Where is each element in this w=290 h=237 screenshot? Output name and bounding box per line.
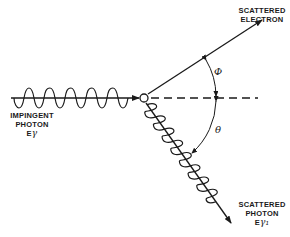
energy-subscript: γ xyxy=(32,128,38,138)
theta-angle-label: θ xyxy=(215,124,221,135)
scattering-center xyxy=(140,94,148,102)
energy-subscript: γ₁ xyxy=(260,217,269,227)
compton-scattering-diagram: SCATTERED ELECTRON IMPINGENT PHOTON Eγ S… xyxy=(0,0,290,237)
scattered-photon-label-line1: SCATTERED xyxy=(234,200,290,209)
scattered-electron-line xyxy=(148,20,262,94)
impingent-photon-label: IMPINGENT PHOTON Eγ xyxy=(8,111,56,138)
impingent-photon-label-line1: IMPINGENT xyxy=(8,111,56,120)
scattered-electron-label-line1: SCATTERED xyxy=(234,6,290,15)
scattered-electron-label-line2: ELECTRON xyxy=(234,15,290,24)
scattered-photon-energy: Eγ₁ xyxy=(234,218,290,227)
scattered-photon-label: SCATTERED PHOTON Eγ₁ xyxy=(234,200,290,227)
scattered-photon-wave xyxy=(141,101,222,207)
scattered-electron-label: SCATTERED ELECTRON xyxy=(234,6,290,24)
scattered-photon-axis xyxy=(146,103,231,223)
phi-angle-label: Φ xyxy=(214,66,222,77)
impingent-photon-energy: Eγ xyxy=(8,129,56,138)
theta-angle-arc xyxy=(192,101,216,153)
